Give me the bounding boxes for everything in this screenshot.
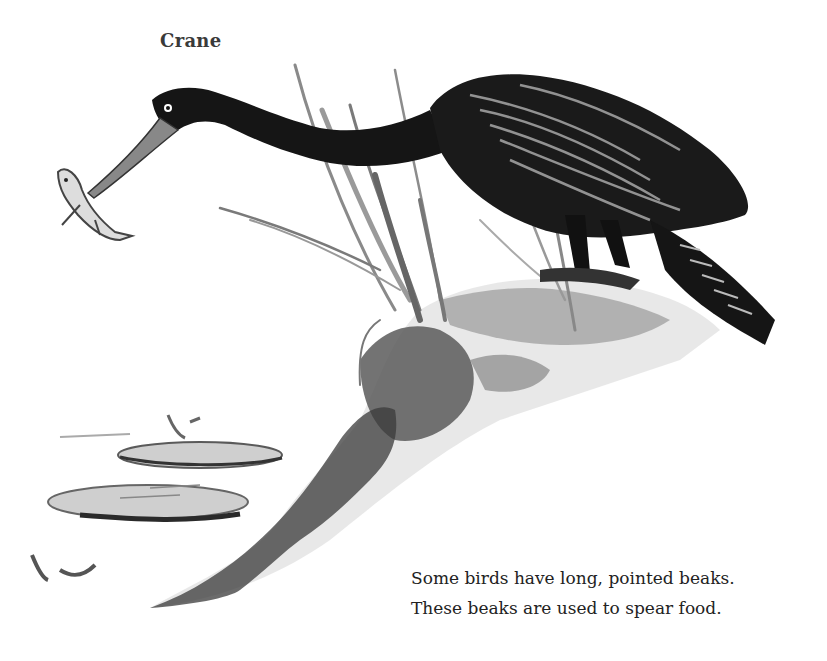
caption: Some birds have long, pointed beaks. The… (411, 563, 735, 623)
book-page: Crane (0, 0, 827, 661)
fish (58, 169, 132, 240)
caption-line-2: These beaks are used to spear food. (411, 593, 735, 623)
crane-illustration (0, 0, 827, 661)
caption-line-1: Some birds have long, pointed beaks. (411, 563, 735, 593)
